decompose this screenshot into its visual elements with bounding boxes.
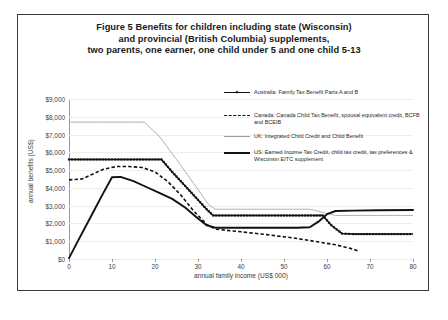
series-marker [360, 233, 362, 235]
series-marker [173, 173, 175, 175]
series-marker [206, 208, 208, 210]
series-marker [120, 158, 122, 160]
series-markers-australia [68, 158, 411, 235]
series-marker [175, 176, 177, 178]
series-marker [381, 233, 383, 235]
series-marker [165, 163, 167, 165]
series-marker [154, 158, 156, 160]
series-marker [133, 158, 135, 160]
series-marker [246, 214, 248, 216]
series-marker [301, 214, 303, 216]
series-marker [283, 214, 285, 216]
series-marker [114, 158, 116, 160]
series-marker [130, 158, 132, 160]
y-tick-label: $3,000 [45, 202, 65, 209]
series-marker [316, 214, 318, 216]
x-tick-label: 30 [194, 263, 201, 270]
series-marker [96, 158, 98, 160]
series-marker [89, 158, 91, 160]
series-marker [319, 214, 321, 216]
x-axis-tick [241, 259, 242, 262]
legend-swatch-icon [224, 115, 250, 120]
x-axis-tick [413, 259, 414, 262]
series-marker [366, 233, 368, 235]
series-marker [180, 180, 182, 182]
figure-title: Figure 5 Benefits for children including… [18, 22, 430, 57]
y-tick-label: $7,000 [45, 131, 65, 138]
series-marker [102, 158, 104, 160]
x-tick-label: 40 [237, 263, 244, 270]
series-marker [197, 199, 199, 201]
x-axis-tick [198, 259, 199, 262]
series-marker [304, 214, 306, 216]
series-marker [400, 233, 402, 235]
series-marker [93, 158, 95, 160]
series-marker [218, 214, 220, 216]
x-axis-tick [284, 259, 285, 262]
series-marker [330, 224, 332, 226]
series-marker [208, 210, 210, 212]
x-tick-label: 20 [151, 263, 158, 270]
series-line-us [69, 177, 413, 258]
x-tick-label: 50 [280, 263, 287, 270]
series-marker [117, 158, 119, 160]
series-marker [163, 161, 165, 163]
series-marker [271, 214, 273, 216]
series-marker [167, 166, 169, 168]
series-marker [258, 214, 260, 216]
y-tick-label: $8,000 [45, 113, 65, 120]
x-tick-label: 0 [67, 263, 71, 270]
series-marker [231, 214, 233, 216]
series-marker [105, 158, 107, 160]
series-marker [148, 158, 150, 160]
x-axis-tick [327, 259, 328, 262]
y-tick-label: $0 [58, 256, 65, 263]
series-marker [221, 214, 223, 216]
series-marker [191, 192, 193, 194]
series-marker [188, 190, 190, 192]
series-marker [369, 233, 371, 235]
x-tick-label: 80 [409, 263, 416, 270]
series-marker [403, 233, 405, 235]
series-line-canada [69, 167, 359, 252]
series-marker [307, 214, 309, 216]
y-tick-label: $5,000 [45, 167, 65, 174]
legend-label: UK: Integrated Child Credit and Child Be… [254, 133, 422, 140]
series-marker [151, 158, 153, 160]
series-marker [86, 158, 88, 160]
series-marker [142, 158, 144, 160]
series-marker [68, 158, 70, 160]
series-marker [127, 158, 129, 160]
series-marker [108, 158, 110, 160]
series-marker [80, 158, 82, 160]
figure-title-line-3: two parents, one earner, one child under… [18, 45, 430, 57]
series-marker [286, 214, 288, 216]
series-marker [243, 214, 245, 216]
series-marker [289, 214, 291, 216]
series-marker [409, 233, 411, 235]
series-marker [193, 194, 195, 196]
series-marker [77, 158, 79, 160]
series-marker [394, 233, 396, 235]
series-marker [406, 233, 408, 235]
y-axis-title: annual benefits (US$) [27, 139, 34, 203]
series-marker [292, 214, 294, 216]
y-tick-label: $6,000 [45, 149, 65, 156]
series-marker [348, 233, 350, 235]
series-marker [280, 214, 282, 216]
series-marker [249, 214, 251, 216]
series-marker [215, 214, 217, 216]
series-marker [363, 233, 365, 235]
series-marker [210, 212, 212, 214]
series-marker [378, 233, 380, 235]
x-tick-label: 10 [108, 263, 115, 270]
series-marker [375, 233, 377, 235]
series-marker [157, 158, 159, 160]
series-marker [397, 233, 399, 235]
series-marker [295, 214, 297, 216]
legend-swatch-icon [224, 136, 250, 141]
x-axis-title: annual family income (US$ 000) [69, 272, 413, 279]
series-marker [212, 214, 214, 216]
series-marker [313, 214, 315, 216]
series-marker [83, 158, 85, 160]
